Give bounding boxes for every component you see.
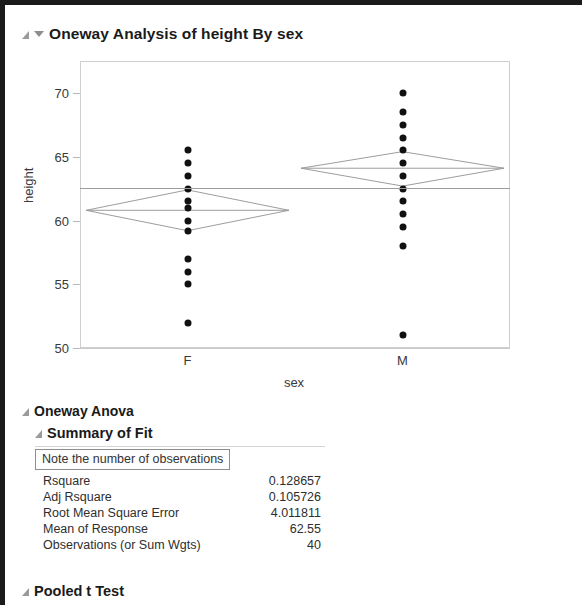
data-point[interactable]	[184, 227, 191, 234]
stat-label: Adj Rsquare	[43, 489, 251, 505]
data-point[interactable]	[184, 160, 191, 167]
data-point[interactable]	[399, 90, 406, 97]
table-row: Adj Rsquare0.105726	[43, 489, 325, 505]
triangle-collapse-icon[interactable]	[22, 408, 29, 416]
data-point[interactable]	[399, 211, 406, 218]
x-axis-label: sex	[5, 375, 582, 390]
oneway-chart: height 7065605550 FM sex	[5, 53, 582, 398]
data-point[interactable]	[184, 319, 191, 326]
stat-label: Mean of Response	[43, 521, 251, 537]
triangle-collapse-icon[interactable]	[22, 31, 29, 39]
mean-diamond	[301, 152, 504, 186]
data-point[interactable]	[399, 172, 406, 179]
data-point[interactable]	[184, 268, 191, 275]
summary-of-fit-panel: Note the number of observations Rsquare0…	[35, 446, 325, 553]
annotation-callout[interactable]: Note the number of observations	[35, 449, 230, 470]
grand-mean-line	[80, 188, 510, 189]
section-label: Oneway Anova	[34, 403, 134, 419]
page-title: Oneway Analysis of height By sex	[49, 25, 303, 43]
stat-value: 0.128657	[251, 473, 325, 489]
stat-label: Observations (or Sum Wgts)	[43, 537, 251, 553]
data-point[interactable]	[399, 198, 406, 205]
stat-value: 0.105726	[251, 489, 325, 505]
data-point[interactable]	[184, 172, 191, 179]
data-point[interactable]	[399, 223, 406, 230]
red-triangle-menu-icon[interactable]	[34, 31, 44, 37]
data-point[interactable]	[399, 147, 406, 154]
data-point[interactable]	[399, 332, 406, 339]
data-point[interactable]	[184, 204, 191, 211]
data-point[interactable]	[399, 243, 406, 250]
section-pooled-t-test[interactable]: Pooled t Test	[22, 583, 124, 599]
table-row: Observations (or Sum Wgts)40	[43, 537, 325, 553]
data-point[interactable]	[184, 147, 191, 154]
triangle-collapse-icon[interactable]	[22, 588, 29, 596]
section-label: Summary of Fit	[47, 425, 153, 441]
stat-value: 40	[251, 537, 325, 553]
section-oneway-anova[interactable]: Oneway Anova	[22, 403, 134, 419]
data-point[interactable]	[399, 121, 406, 128]
section-label: Pooled t Test	[34, 583, 124, 599]
stat-label: Rsquare	[43, 473, 251, 489]
table-row: Rsquare0.128657	[43, 473, 325, 489]
section-summary-of-fit[interactable]: Summary of Fit	[35, 425, 153, 441]
oneway-analysis-report: Oneway Analysis of height By sex height …	[0, 0, 582, 605]
data-point[interactable]	[184, 255, 191, 262]
data-point[interactable]	[399, 134, 406, 141]
table-row: Mean of Response62.55	[43, 521, 325, 537]
report-title-bar[interactable]: Oneway Analysis of height By sex	[22, 25, 303, 43]
stat-value: 4.011811	[251, 505, 325, 521]
data-point[interactable]	[399, 160, 406, 167]
data-point[interactable]	[399, 109, 406, 116]
divider	[35, 446, 325, 447]
data-point[interactable]	[184, 217, 191, 224]
table-row: Root Mean Square Error4.011811	[43, 505, 325, 521]
mean-diamonds-layer	[5, 53, 582, 398]
summary-of-fit-table: Rsquare0.128657Adj Rsquare0.105726Root M…	[43, 473, 325, 553]
data-point[interactable]	[184, 281, 191, 288]
stat-value: 62.55	[251, 521, 325, 537]
triangle-collapse-icon[interactable]	[35, 430, 42, 438]
stat-label: Root Mean Square Error	[43, 505, 251, 521]
